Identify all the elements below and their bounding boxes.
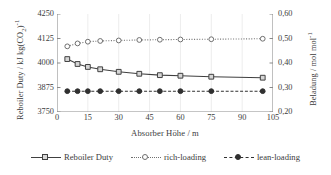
data-point <box>85 39 90 44</box>
legend-marker <box>235 154 241 160</box>
chart-legend: Reboiler Dutyrich-loadinglean-loading <box>0 152 331 162</box>
y-axis-right-tick-label: 0,40 <box>278 59 318 67</box>
data-point <box>65 44 70 49</box>
data-point <box>98 39 103 44</box>
y-axis-left-tick-label: 4125 <box>14 35 54 43</box>
data-point <box>157 73 162 78</box>
data-point <box>137 38 142 43</box>
data-point <box>260 75 265 80</box>
series-line-rich-loading <box>67 39 262 47</box>
legend-item-reboiler-duty[interactable]: Reboiler Duty <box>31 152 113 162</box>
legend-symbol <box>31 153 61 162</box>
legend-symbol <box>224 153 254 162</box>
plot-area <box>57 14 273 112</box>
y-axis-right-tick-label: 0,60 <box>278 10 318 18</box>
data-point <box>116 38 121 43</box>
data-point <box>98 89 103 94</box>
data-point <box>65 89 70 94</box>
y-axis-left-tick-label: 3875 <box>14 84 54 92</box>
y-axis-right-tick-label: 0,50 <box>278 35 318 43</box>
data-point <box>137 89 142 94</box>
legend-marker <box>142 154 148 160</box>
data-point <box>209 37 214 42</box>
data-point <box>157 37 162 42</box>
legend-label: rich-loading <box>164 152 206 162</box>
series-line-reboiler-duty <box>67 59 262 78</box>
data-point <box>75 41 80 46</box>
x-axis-title: Absorber Höhe / m <box>57 128 273 138</box>
data-point <box>75 62 80 67</box>
data-point <box>85 65 90 70</box>
data-point <box>209 89 214 94</box>
data-point <box>178 89 183 94</box>
data-point <box>137 71 142 76</box>
chart-figure: Reboiler Duty / kJ kg(CO2)-1 Beladung / … <box>0 0 331 175</box>
data-point <box>178 73 183 78</box>
data-point <box>178 37 183 42</box>
data-point <box>116 89 121 94</box>
data-point <box>98 67 103 72</box>
legend-symbol <box>131 153 161 162</box>
legend-item-lean-loading[interactable]: lean-loading <box>224 152 300 162</box>
data-point <box>75 89 80 94</box>
legend-label: Reboiler Duty <box>64 152 113 162</box>
data-point <box>209 74 214 79</box>
data-point <box>85 89 90 94</box>
legend-item-rich-loading[interactable]: rich-loading <box>131 152 206 162</box>
y-axis-right-tick-label: 0,30 <box>278 84 318 92</box>
data-point <box>65 57 70 62</box>
data-point <box>116 69 121 74</box>
data-point <box>260 36 265 41</box>
legend-label: lean-loading <box>257 152 300 162</box>
y-axis-left-tick-label: 4250 <box>14 10 54 18</box>
x-axis-tick-label: 105 <box>253 114 293 122</box>
y-axis-left-tick-label: 4000 <box>14 59 54 67</box>
data-point <box>157 89 162 94</box>
legend-marker <box>42 154 48 160</box>
data-point <box>260 89 265 94</box>
